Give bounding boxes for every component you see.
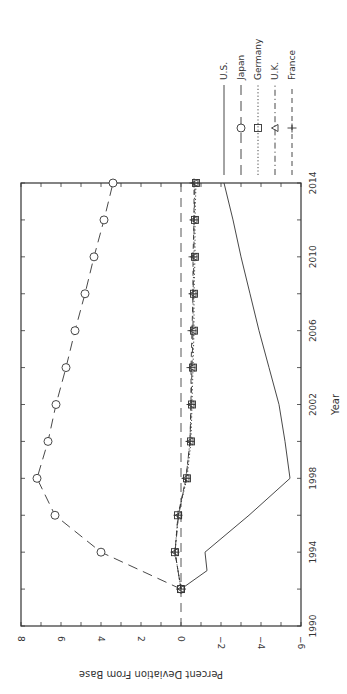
legend-item: France xyxy=(287,50,297,175)
circle-marker xyxy=(97,548,105,556)
circle-marker xyxy=(100,216,108,224)
year-tick-label: 2002 xyxy=(308,393,318,416)
value-tick-label: 2 xyxy=(136,636,146,642)
series-germany xyxy=(172,180,200,593)
circle-marker xyxy=(44,437,52,445)
circle-marker xyxy=(81,290,89,298)
year-tick-label: 2014 xyxy=(308,171,318,194)
series-line xyxy=(175,183,196,589)
circle-marker xyxy=(109,179,117,187)
circle-marker xyxy=(237,124,245,132)
legend-label: U.K. xyxy=(270,62,280,80)
x-axis-title: Year xyxy=(330,393,341,416)
year-tick-label: 1990 xyxy=(308,614,318,637)
plot-frame xyxy=(21,183,301,626)
legend-item: Germany xyxy=(253,38,263,175)
series-line xyxy=(181,183,290,589)
y-axis-title: Percent Deviation From Base xyxy=(79,669,223,680)
circle-marker xyxy=(33,474,41,482)
legend-label: U.S. xyxy=(219,62,229,80)
legend-label: Germany xyxy=(253,38,263,80)
value-tick-label: −4 xyxy=(256,636,266,650)
chart: 86420−2−4−61990199419982002200620102014Y… xyxy=(0,0,347,694)
plot-area: 86420−2−4−61990199419982002200620102014Y… xyxy=(16,38,341,680)
circle-marker xyxy=(62,364,70,372)
circle-marker xyxy=(71,327,79,335)
circle-marker xyxy=(51,511,59,519)
value-tick-label: 8 xyxy=(16,636,26,642)
value-tick-label: −2 xyxy=(216,636,226,649)
legend-item: U.K. xyxy=(270,62,280,175)
value-tick-label: 0 xyxy=(176,636,186,642)
series-uk xyxy=(172,180,199,593)
year-tick-label: 2010 xyxy=(308,245,318,268)
circle-marker xyxy=(90,253,98,261)
circle-marker xyxy=(52,401,60,409)
legend-item: Japan xyxy=(236,55,246,175)
value-tick-label: 6 xyxy=(56,636,66,642)
series-line xyxy=(37,183,181,589)
series-japan xyxy=(33,179,185,593)
year-tick-label: 2006 xyxy=(308,319,318,342)
series-us xyxy=(181,183,290,589)
series-france xyxy=(171,179,199,594)
value-tick-label: −6 xyxy=(296,636,306,650)
year-tick-label: 1998 xyxy=(308,467,318,490)
legend-item: U.S. xyxy=(219,62,229,175)
legend-label: Japan xyxy=(236,55,246,81)
series-line xyxy=(175,183,194,589)
value-tick-label: 4 xyxy=(96,636,106,642)
year-tick-label: 1994 xyxy=(308,540,318,563)
series-line xyxy=(175,183,195,589)
legend: U.S.JapanGermanyU.K.France xyxy=(219,38,297,175)
legend-label: France xyxy=(287,50,297,80)
